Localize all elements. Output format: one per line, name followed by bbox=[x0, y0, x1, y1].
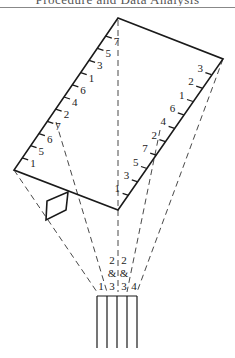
scale-label: 6 bbox=[80, 84, 86, 96]
scale-label: 3 bbox=[97, 59, 103, 71]
projection-diagram: 75316427651 3216427531 2 2 & & 1 3 3 4 bbox=[0, 0, 235, 358]
scale-tick bbox=[97, 48, 103, 50]
scale-tick bbox=[123, 193, 129, 195]
finger-label-mid-2: & bbox=[120, 267, 129, 279]
projection-lines bbox=[14, 20, 223, 292]
scale-tick bbox=[81, 73, 87, 75]
scale-label: 7 bbox=[114, 35, 120, 47]
scale-tick bbox=[178, 113, 184, 115]
scale-label: 3 bbox=[124, 169, 130, 181]
finger-label-top-2: 2 bbox=[121, 254, 127, 266]
scale-tick bbox=[64, 97, 70, 99]
finger-label-bottom-4: 4 bbox=[131, 280, 137, 292]
scale-label: 7 bbox=[55, 120, 61, 132]
scale-tick bbox=[56, 109, 62, 111]
scale-tick bbox=[89, 60, 95, 62]
scale-label: 2 bbox=[151, 129, 157, 141]
scale-label: 5 bbox=[39, 145, 45, 157]
scale-label: 4 bbox=[72, 96, 78, 108]
finger-label-mid-1: & bbox=[108, 267, 117, 279]
scale-tick bbox=[132, 180, 138, 182]
scale-tick bbox=[187, 100, 193, 102]
scale-label: 6 bbox=[170, 102, 176, 114]
fingers bbox=[97, 296, 137, 348]
scale-label: 5 bbox=[105, 47, 111, 59]
marker-shape bbox=[46, 192, 68, 220]
scale-tick bbox=[47, 121, 53, 123]
scale-tick bbox=[31, 146, 37, 148]
scale-label: 1 bbox=[30, 157, 35, 169]
scale-tick bbox=[169, 126, 175, 128]
scale-label: 3 bbox=[197, 62, 203, 74]
scale-tick bbox=[72, 85, 78, 87]
left-scale: 75316427651 bbox=[22, 35, 120, 169]
scale-label: 5 bbox=[133, 156, 139, 168]
scale-label: 1 bbox=[89, 72, 95, 84]
scale-label: 6 bbox=[47, 133, 53, 145]
scale-label: 2 bbox=[188, 75, 194, 87]
scale-label: 2 bbox=[64, 108, 70, 120]
scale-label: 1 bbox=[115, 182, 121, 194]
scale-tick bbox=[141, 167, 147, 169]
scale-tick bbox=[205, 73, 211, 75]
scale-tick bbox=[159, 140, 165, 142]
scale-tick bbox=[106, 36, 112, 38]
finger-label-bottom-3: 3 bbox=[121, 280, 127, 292]
scale-label: 1 bbox=[179, 89, 185, 101]
scale-label: 4 bbox=[161, 115, 167, 127]
scale-tick bbox=[196, 86, 202, 88]
finger-label-bottom-2: 3 bbox=[109, 280, 115, 292]
scale-tick bbox=[39, 134, 45, 136]
finger-label-top-1: 2 bbox=[109, 254, 115, 266]
scale-label: 7 bbox=[142, 142, 148, 154]
scale-tick bbox=[22, 158, 28, 160]
finger-label-bottom-1: 1 bbox=[98, 280, 104, 292]
